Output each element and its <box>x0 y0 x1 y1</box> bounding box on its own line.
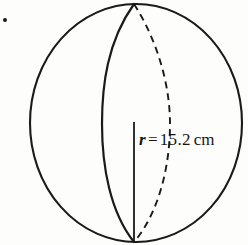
sphere-diagram-figure: r=15.2cm <box>0 0 248 245</box>
sphere-drawing <box>0 0 248 245</box>
equals-sign: = <box>147 130 160 149</box>
back-meridian-arc-dashed <box>134 4 170 242</box>
radius-value: 15.2 <box>160 130 194 149</box>
radius-label: r=15.2cm <box>139 131 215 148</box>
radius-unit: cm <box>194 130 215 149</box>
sphere-outline-circle <box>30 4 242 242</box>
front-meridian-arc <box>102 4 134 242</box>
radius-symbol: r <box>139 130 147 149</box>
